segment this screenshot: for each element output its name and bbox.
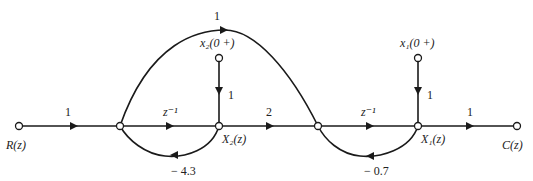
node-init1 xyxy=(415,55,422,62)
gain-feedback-x2: − 4.3 xyxy=(171,164,196,178)
arrow-delay1 xyxy=(166,122,174,130)
arrow-feedback-x1 xyxy=(366,152,374,160)
arrow-delay2 xyxy=(366,122,374,130)
label-x2: X₂(z) xyxy=(221,132,246,146)
label-x1: X₁(z) xyxy=(420,132,445,146)
label-init2: x₂(0 +) xyxy=(199,36,235,50)
gain-init1: 1 xyxy=(427,88,433,102)
arrow-top-arc xyxy=(220,26,228,34)
node-input xyxy=(16,123,23,130)
node-init2 xyxy=(216,55,223,62)
arrow-output xyxy=(466,122,474,130)
gain-top-arc: 1 xyxy=(214,9,220,23)
gain-delay2: z⁻¹ xyxy=(360,105,376,119)
feedback-loop-x2 xyxy=(120,126,219,156)
label-init1: x₁(0 +) xyxy=(399,36,435,50)
arrow-init1 xyxy=(414,87,422,95)
gain-input: 1 xyxy=(65,105,71,119)
node-n1 xyxy=(117,123,124,130)
node-x1 xyxy=(415,123,422,130)
node-x2 xyxy=(216,123,223,130)
node-output xyxy=(514,123,521,130)
gain-delay1: z⁻¹ xyxy=(162,105,178,119)
label-input: R(z) xyxy=(5,138,26,152)
gain-output: 1 xyxy=(467,105,473,119)
arrow-init2 xyxy=(215,87,223,95)
arrow-input xyxy=(70,122,78,130)
gain-forward: 2 xyxy=(266,105,272,119)
feedback-loop-x1 xyxy=(318,126,418,156)
signal-flow-graph: R(z) C(z) X₂(z) X₁(z) x₂(0 +) x₁(0 +) 1 … xyxy=(0,0,533,181)
node-n3 xyxy=(315,123,322,130)
label-output: C(z) xyxy=(502,138,523,152)
gain-init2: 1 xyxy=(228,88,234,102)
arrow-gain2 xyxy=(266,122,274,130)
arrow-feedback-x2 xyxy=(170,151,178,159)
gain-feedback-x1: − 0.7 xyxy=(364,164,389,178)
